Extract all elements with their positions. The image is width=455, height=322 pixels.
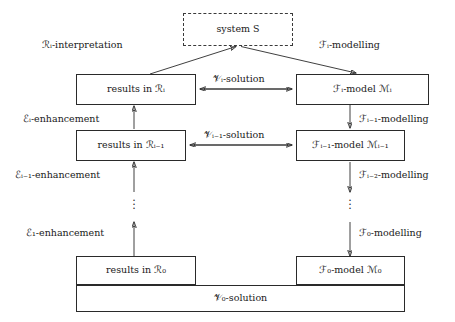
label-enhancement-i: ℰᵢ-enhancement [22, 114, 100, 124]
box-solution-0-label: 𝒱₀-solution [214, 293, 267, 303]
system-box-label: system S [216, 24, 259, 34]
box-results-0-label: results in ℛ₀ [106, 265, 166, 275]
box-results-i: results in ℛᵢ [76, 74, 196, 105]
box-results-0: results in ℛ₀ [76, 256, 196, 285]
arrow-system-to-model [241, 47, 356, 74]
label-enhancement-1: ℰ₁-enhancement [25, 228, 105, 238]
label-modelling-i2: ℱᵢ₋₂-modelling [358, 170, 430, 180]
box-results-i-label: results in ℛᵢ [107, 84, 165, 94]
box-results-i1: results in ℛᵢ₋₁ [76, 130, 186, 161]
ellipsis-right-dot-3: . [344, 204, 356, 208]
box-model-0: ℱ₀-model ℳ₀ [296, 256, 405, 285]
label-modelling-i: ℱᵢ-modelling [318, 40, 381, 50]
label-interpretation-i: ℛᵢ-interpretation [41, 40, 124, 50]
box-model-i1-label: ℱᵢ₋₁-model ℳᵢ₋₁ [312, 140, 388, 150]
label-solution-i: 𝒱ᵢ-solution [212, 74, 266, 84]
label-modelling-0: ℱ₀-modelling [358, 228, 423, 238]
ellipsis-left-dot-3: . [128, 204, 140, 208]
label-enhancement-i1: ℰᵢ₋₁-enhancement [14, 170, 101, 180]
system-box: system S [183, 13, 293, 46]
box-model-i: ℱᵢ-model ℳᵢ [296, 74, 429, 105]
ellipsis-left: . . . [128, 196, 140, 208]
label-solution-i1: 𝒱ᵢ₋₁-solution [203, 130, 265, 140]
model-hierarchy-diagram: system S ℛᵢ-interpretation ℱᵢ-modelling … [0, 0, 455, 322]
box-solution-0: 𝒱₀-solution [76, 285, 405, 312]
arrow-interpretation-to-system [150, 47, 236, 75]
box-model-i1: ℱᵢ₋₁-model ℳᵢ₋₁ [296, 130, 405, 161]
box-model-i-label: ℱᵢ-model ℳᵢ [333, 84, 392, 94]
box-model-0-label: ℱ₀-model ℳ₀ [319, 265, 381, 275]
ellipsis-right: . . . [344, 196, 356, 208]
box-results-i1-label: results in ℛᵢ₋₁ [98, 140, 165, 150]
label-modelling-i1: ℱᵢ₋₁-modelling [358, 114, 430, 124]
